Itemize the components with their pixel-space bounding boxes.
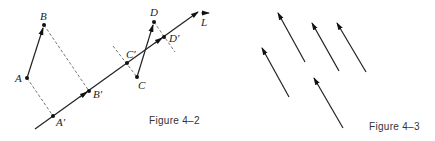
point-A [25, 76, 29, 80]
point-D [152, 20, 156, 24]
label-C-prime: C′ [126, 48, 136, 60]
label-D-prime: D′ [168, 32, 180, 44]
label-D: D [149, 6, 158, 18]
projection-line-A [27, 78, 53, 116]
point-D-prime [162, 35, 166, 39]
label-L-group: L [200, 13, 209, 28]
point-B [42, 23, 46, 27]
figure-4-2: A B A′ B′ C D C′ D′ L Figure 4–2 [14, 6, 209, 129]
label-B: B [40, 10, 47, 22]
vector-CD [137, 25, 153, 77]
projection-line-B [44, 25, 89, 91]
arrow-vector-2 [278, 13, 305, 62]
label-C: C [138, 79, 146, 91]
point-C-prime [125, 61, 129, 65]
caption-figure-4-3: Figure 4–3 [369, 121, 420, 132]
arrow-vector-3 [312, 23, 339, 71]
label-A-prime: A′ [55, 116, 66, 128]
figures-canvas: A B A′ B′ C D C′ D′ L Figure 4–2 Figure … [0, 0, 435, 141]
point-B-prime [87, 89, 91, 93]
label-B-prime: B′ [93, 88, 103, 100]
point-A-prime [51, 114, 55, 118]
line-L [35, 12, 198, 129]
vector-AprimeBprime-head [80, 92, 87, 97]
figure-4-3: Figure 4–3 [262, 13, 420, 132]
label-L: L [200, 16, 207, 28]
arrow-vector-4 [337, 23, 366, 72]
vector-CprimeDprime-head [155, 38, 162, 43]
vector-AB [27, 28, 43, 78]
caption-figure-4-2: Figure 4–2 [149, 115, 200, 126]
arrow-vector-1 [262, 48, 289, 97]
figures-svg: A B A′ B′ C D C′ D′ L Figure 4–2 Figure … [0, 0, 435, 141]
arrow-vector-5 [314, 78, 343, 128]
label-A: A [14, 72, 22, 84]
